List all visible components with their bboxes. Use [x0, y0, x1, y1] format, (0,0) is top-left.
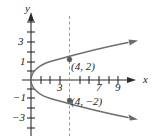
y-tick-label-neg3: −3	[12, 112, 25, 123]
y-axis	[27, 12, 35, 136]
y-axis-label: y	[25, 3, 30, 14]
x-tick-label-3: 3	[57, 82, 63, 93]
x-axis-label: x	[143, 74, 148, 85]
x-tick-label-9: 9	[115, 82, 121, 93]
parabola-graph-figure: 3 1 −1 −3 3 7 9 y x (4, 2) (4, −2)	[0, 0, 156, 140]
point-label-4-2: (4, 2)	[71, 61, 95, 72]
y-tick-label-neg1: −1	[13, 92, 26, 103]
y-tick-label-1: 1	[20, 56, 26, 67]
point-label-4-neg2: (4, −2)	[71, 96, 102, 107]
x-tick-label-7: 7	[96, 82, 102, 93]
y-tick-label-3: 3	[18, 36, 24, 47]
